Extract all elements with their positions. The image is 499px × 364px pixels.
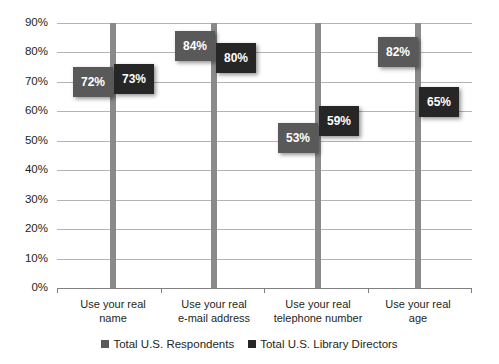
legend-swatch-icon — [248, 340, 256, 348]
data-marker-respondents-age: 82% — [378, 37, 418, 67]
legend-entry-directors: Total U.S. Library Directors — [248, 338, 397, 350]
category-bar-telephone — [315, 23, 321, 288]
plot-area: 72% 73% 84% 80% 53% 59% 82% 65% — [57, 23, 472, 288]
y-tick-label: 60% — [0, 105, 48, 117]
x-axis-tick — [368, 288, 369, 293]
gridline-50 — [57, 141, 472, 142]
category-label-line: age — [353, 311, 483, 325]
gridline-60 — [57, 111, 472, 112]
legend-label: Total U.S. Respondents — [113, 338, 234, 350]
gridline-90 — [57, 23, 472, 24]
data-marker-directors-age: 65% — [419, 87, 459, 117]
y-tick-label: 0% — [0, 282, 48, 294]
data-marker-directors-telephone: 59% — [319, 106, 359, 136]
data-marker-respondents-email: 84% — [175, 31, 215, 61]
category-label-age: Use your real age — [353, 297, 483, 325]
category-label-line: Use your real — [353, 297, 483, 311]
x-axis-tick — [161, 288, 162, 293]
legend-entry-respondents: Total U.S. Respondents — [101, 338, 234, 350]
x-axis-tick — [57, 288, 58, 293]
legend-label: Total U.S. Library Directors — [260, 338, 397, 350]
data-marker-respondents-name: 72% — [73, 67, 113, 97]
gridline-40 — [57, 170, 472, 171]
y-tick-label: 80% — [0, 46, 48, 58]
data-marker-directors-name: 73% — [114, 64, 154, 94]
y-tick-label: 50% — [0, 135, 48, 147]
y-tick-label: 90% — [0, 17, 48, 29]
category-bar-name — [110, 23, 116, 288]
x-axis-tick — [264, 288, 265, 293]
data-marker-directors-email: 80% — [216, 43, 256, 73]
chart-legend: Total U.S. Respondents Total U.S. Librar… — [0, 338, 499, 350]
x-axis-tick — [471, 288, 472, 293]
legend-swatch-icon — [101, 340, 109, 348]
y-tick-label: 30% — [0, 194, 48, 206]
gridline-20 — [57, 229, 472, 230]
y-tick-label: 70% — [0, 76, 48, 88]
gridline-30 — [57, 200, 472, 201]
y-tick-label: 40% — [0, 164, 48, 176]
data-marker-respondents-telephone: 53% — [278, 123, 318, 153]
y-tick-label: 20% — [0, 223, 48, 235]
chart-container: 90% 80% 70% 60% 50% 40% 30% 20% 10% 0% — [0, 0, 499, 364]
y-tick-label: 10% — [0, 253, 48, 265]
gridline-10 — [57, 259, 472, 260]
